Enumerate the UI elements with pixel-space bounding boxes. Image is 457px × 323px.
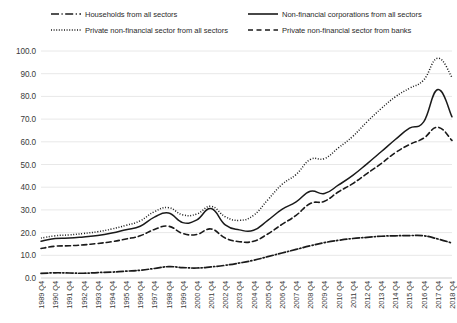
x-axis-tick-label: 2014 Q4 (391, 281, 400, 309)
x-axis-tick-label: 1997 Q4 (150, 281, 159, 309)
x-axis-tick-label: 1993 Q4 (94, 281, 103, 309)
x-axis-tick-label: 1994 Q4 (108, 281, 117, 309)
x-axis-tick-label: 2018 Q4 (448, 281, 457, 309)
x-axis-tick-label: 2007 Q4 (292, 281, 301, 309)
x-axis-tick-label: 1990 Q4 (51, 281, 60, 309)
x-axis-labels: 1989 Q41990 Q41991 Q41992 Q41993 Q41994 … (0, 0, 457, 323)
x-axis-tick-label: 2008 Q4 (306, 281, 315, 309)
x-axis-tick-label: 2001 Q4 (207, 281, 216, 309)
x-axis-tick-label: 2002 Q4 (221, 281, 230, 309)
x-axis-tick-label: 2006 Q4 (278, 281, 287, 309)
x-axis-tick-label: 2011 Q4 (349, 281, 358, 308)
x-axis-tick-label: 2010 Q4 (335, 281, 344, 309)
x-axis-tick-label: 1992 Q4 (80, 281, 89, 309)
x-axis-tick-label: 2003 Q4 (235, 281, 244, 309)
line-chart: Households from all sectors Non-financia… (0, 0, 457, 323)
x-axis-tick-label: 2017 Q4 (434, 281, 443, 309)
x-axis-tick-label: 1996 Q4 (136, 281, 145, 309)
x-axis-tick-label: 2005 Q4 (264, 281, 273, 309)
x-axis-tick-label: 1995 Q4 (122, 281, 131, 309)
x-axis-tick-label: 2012 Q4 (363, 281, 372, 309)
x-axis-tick-label: 2015 Q4 (405, 281, 414, 309)
x-axis-tick-label: 2000 Q4 (193, 281, 202, 309)
x-axis-tick-label: 1989 Q4 (37, 281, 46, 309)
x-axis-tick-label: 1991 Q4 (65, 281, 74, 309)
x-axis-tick-label: 2013 Q4 (377, 281, 386, 309)
x-axis-tick-label: 1999 Q4 (179, 281, 188, 309)
x-axis-tick-label: 1998 Q4 (165, 281, 174, 309)
x-axis-tick-label: 2004 Q4 (250, 281, 259, 309)
x-axis-tick-label: 2016 Q4 (420, 281, 429, 309)
x-axis-tick-label: 2009 Q4 (320, 281, 329, 309)
